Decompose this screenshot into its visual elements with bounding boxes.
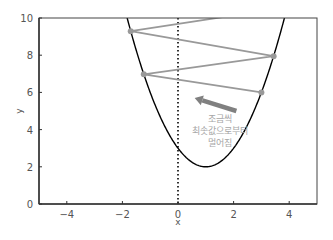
x-tick-label: 4 [286, 209, 292, 220]
plot-area: 조금씩최솟값으로부터멀어짐 [39, 0, 317, 204]
x-tick-label: 2 [230, 209, 236, 220]
x-axis-label: x [175, 217, 181, 227]
y-tick-label: 2 [27, 162, 33, 173]
y-tick-label: 0 [27, 199, 33, 210]
axes: −4−20240246810xy [14, 13, 317, 227]
annotation-text-line: 멀어짐 [208, 137, 232, 148]
chart: 조금씩최솟값으로부터멀어짐 −4−20240246810xy [0, 0, 333, 240]
step-point-marker [258, 89, 264, 95]
annotation-text-line: 조금씩 [208, 114, 232, 124]
x-tick-label: −4 [59, 209, 74, 220]
y-tick-label: 6 [27, 87, 33, 98]
x-tick-label: −2 [115, 209, 130, 220]
y-tick-label: 4 [27, 125, 33, 136]
step-point-marker [271, 53, 277, 59]
step-point-marker [128, 28, 134, 34]
plot-clip-group [39, 0, 317, 204]
arrow-shaft [202, 100, 236, 111]
y-tick-label: 10 [20, 13, 33, 24]
y-tick-label: 8 [27, 50, 33, 61]
step-point-marker [141, 71, 147, 77]
y-axis-label: y [14, 108, 24, 114]
annotation-text-line: 최솟값으로부터 [192, 125, 248, 136]
